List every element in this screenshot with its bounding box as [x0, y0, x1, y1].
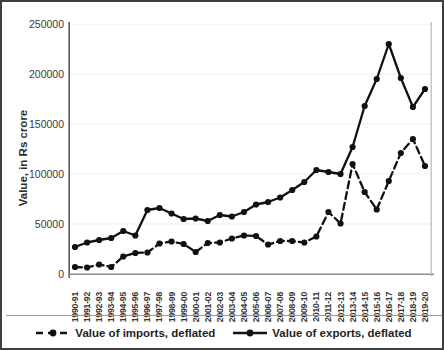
x-tick-label: 1997-98 [154, 292, 164, 322]
legend-symbol-solid-line [233, 327, 267, 339]
data-point-marker [72, 264, 78, 270]
y-axis-tick-labels: 050000100000150000200000250000 [2, 2, 64, 350]
y-tick-label: 250000 [8, 18, 64, 30]
data-point-marker [229, 235, 235, 241]
data-point-marker [96, 237, 102, 243]
x-tick-label: 2013-14 [348, 292, 358, 322]
x-tick-label: 2009-10 [299, 292, 309, 322]
x-tick-label: 2000-01 [191, 292, 201, 322]
x-tick-label: 1995-96 [130, 292, 140, 322]
data-point-marker [410, 136, 416, 142]
data-point-marker [84, 264, 90, 270]
chart-legend: Value of imports, deflated Value of expo… [2, 320, 444, 346]
data-point-marker [362, 103, 368, 109]
data-point-marker [144, 249, 150, 255]
data-point-marker [422, 86, 428, 92]
x-tick-label: 2005-06 [251, 292, 261, 322]
data-point-marker [168, 210, 174, 216]
x-tick-label: 1992-93 [94, 292, 104, 322]
data-point-marker [217, 212, 223, 218]
data-point-marker [277, 238, 283, 244]
x-tick-label: 2008-09 [287, 292, 297, 322]
legend-item-imports[interactable]: Value of imports, deflated [36, 327, 215, 339]
data-point-marker [325, 209, 331, 215]
plot-area [69, 24, 431, 274]
data-point-marker [398, 150, 404, 156]
data-point-marker [289, 238, 295, 244]
x-tick-label: 2015-16 [372, 292, 382, 322]
y-axis-line [68, 22, 71, 278]
y-tick-label: 150000 [8, 118, 64, 130]
x-tick-label: 2014-15 [360, 292, 370, 322]
x-tick-label: 1999-00 [179, 292, 189, 322]
series-imports-line [75, 139, 425, 268]
data-point-marker [253, 201, 259, 207]
data-point-marker [337, 171, 343, 177]
x-tick-label: 2017-18 [396, 292, 406, 322]
data-point-marker [277, 194, 283, 200]
data-point-marker [156, 240, 162, 246]
data-point-marker [398, 75, 404, 81]
x-tick-label: 2006-07 [263, 292, 273, 322]
data-point-marker [120, 253, 126, 259]
data-point-marker [72, 244, 78, 250]
x-tick-label: 1996-97 [142, 292, 152, 322]
series-exports [72, 41, 428, 250]
data-point-marker [168, 238, 174, 244]
data-point-marker [337, 220, 343, 226]
x-tick-label: 1993-94 [106, 292, 116, 322]
data-point-marker [181, 216, 187, 222]
x-tick-label: 1990-91 [70, 292, 80, 322]
legend-label-exports: Value of exports, deflated [272, 327, 411, 339]
y-tick-label: 100000 [8, 168, 64, 180]
data-point-marker [144, 207, 150, 213]
data-point-marker [108, 264, 114, 270]
data-point-marker [265, 241, 271, 247]
data-point-marker [386, 41, 392, 47]
data-point-marker [313, 233, 319, 239]
x-tick-label: 2012-13 [336, 292, 346, 322]
data-point-marker [253, 233, 259, 239]
gridlines [69, 24, 431, 224]
data-point-marker [241, 209, 247, 215]
plot-right-border [430, 22, 433, 276]
x-tick-label: 2004-05 [239, 292, 249, 322]
data-point-marker [193, 249, 199, 255]
data-point-marker [96, 261, 102, 267]
data-point-marker [313, 167, 319, 173]
data-point-marker [325, 169, 331, 175]
data-point-marker [386, 178, 392, 184]
data-point-marker [374, 76, 380, 82]
x-tick-label: 2007-08 [275, 292, 285, 322]
data-point-marker [229, 213, 235, 219]
y-tick-label: 50000 [8, 218, 64, 230]
data-point-marker [349, 144, 355, 150]
x-tick-label: 2002-03 [215, 292, 225, 322]
y-tick-label: 0 [8, 268, 64, 280]
data-point-marker [410, 104, 416, 110]
data-point-marker [374, 206, 380, 212]
data-point-marker [193, 215, 199, 221]
x-tick-label: 1998-99 [167, 292, 177, 322]
data-point-marker [132, 250, 138, 256]
legend-symbol-dashed-line [36, 327, 70, 339]
x-tick-label: 2011-12 [323, 292, 333, 322]
legend-label-imports: Value of imports, deflated [75, 327, 215, 339]
x-tick-label: 2016-17 [384, 292, 394, 322]
data-point-marker [84, 239, 90, 245]
chart-frame: Value, in Rs crore 050000100000150000200… [0, 0, 444, 350]
data-point-marker [132, 232, 138, 238]
x-tick-label: 2001-02 [203, 292, 213, 322]
data-point-marker [301, 239, 307, 245]
data-point-marker [181, 241, 187, 247]
data-point-marker [422, 163, 428, 169]
chart-container: Value, in Rs crore 050000100000150000200… [2, 2, 444, 350]
series-imports [72, 136, 428, 271]
x-tick-label: 1991-92 [82, 292, 92, 322]
data-point-marker [301, 179, 307, 185]
x-tick-label: 2019-20 [420, 292, 430, 322]
data-point-marker [241, 232, 247, 238]
x-tick-label: 2003-04 [227, 292, 237, 322]
chart-plot-svg [69, 24, 431, 274]
legend-item-exports[interactable]: Value of exports, deflated [233, 327, 411, 339]
